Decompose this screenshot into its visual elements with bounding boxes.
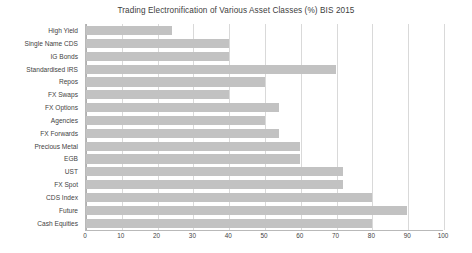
x-tick-label: 100 (438, 232, 449, 239)
bar-chart: Trading Electronification of Various Ass… (0, 0, 472, 253)
y-tick-label: FX Options (0, 103, 82, 112)
x-tick-label: 20 (153, 232, 160, 239)
y-tick-label: FX Forwards (0, 129, 82, 138)
y-tick-label: Future (0, 206, 82, 215)
bar-row (86, 154, 443, 163)
x-tick-label: 60 (296, 232, 303, 239)
bar-row (86, 26, 443, 35)
y-tick-label: Standardised IRS (0, 65, 82, 74)
x-axis-tick-labels: 0102030405060708090100 (85, 232, 443, 246)
bar-cash-equities (86, 219, 372, 228)
gridline-100 (444, 24, 445, 230)
bar-fx-forwards (86, 129, 279, 138)
bar-row (86, 129, 443, 138)
bar-egb (86, 154, 300, 163)
chart-title: Trading Electronification of Various Ass… (0, 6, 472, 15)
y-tick-label: IG Bonds (0, 52, 82, 61)
bar-fx-spot (86, 180, 343, 189)
x-tick-label: 70 (332, 232, 339, 239)
y-tick-label: Single Name CDS (0, 39, 82, 48)
bar-repos (86, 77, 265, 86)
bar-high-yield (86, 26, 172, 35)
bar-row (86, 65, 443, 74)
bar-future (86, 206, 407, 215)
bar-fx-swaps (86, 90, 229, 99)
y-tick-label: High Yield (0, 26, 82, 35)
bar-row (86, 180, 443, 189)
y-axis-tick-labels: High YieldSingle Name CDSIG BondsStandar… (0, 24, 82, 230)
bar-row (86, 193, 443, 202)
bar-row (86, 90, 443, 99)
x-tick-label: 30 (189, 232, 196, 239)
bar-series (86, 24, 443, 230)
bar-fx-options (86, 103, 279, 112)
y-tick-label: Agencies (0, 116, 82, 125)
y-tick-label: FX Spot (0, 180, 82, 189)
bar-row (86, 206, 443, 215)
x-tick-label: 90 (404, 232, 411, 239)
x-tick-label: 10 (117, 232, 124, 239)
bar-row (86, 142, 443, 151)
bar-row (86, 219, 443, 228)
bar-single-name-cds (86, 39, 229, 48)
y-tick-label: Repos (0, 77, 82, 86)
y-tick-label: FX Swaps (0, 90, 82, 99)
bar-row (86, 52, 443, 61)
x-tick-label: 40 (225, 232, 232, 239)
x-axis-line (85, 230, 443, 231)
bar-row (86, 39, 443, 48)
bar-row (86, 116, 443, 125)
bar-ust (86, 167, 343, 176)
bar-precious-metal (86, 142, 300, 151)
bar-standardised-irs (86, 65, 336, 74)
bar-agencies (86, 116, 265, 125)
y-tick-label: Precious Metal (0, 142, 82, 151)
y-tick-label: UST (0, 167, 82, 176)
bar-row (86, 167, 443, 176)
bar-cds-index (86, 193, 372, 202)
x-tick-label: 80 (368, 232, 375, 239)
y-tick-label: Cash Equities (0, 219, 82, 228)
x-tick-label: 50 (260, 232, 267, 239)
bar-ig-bonds (86, 52, 229, 61)
bar-row (86, 77, 443, 86)
plot-area (85, 24, 443, 230)
y-tick-label: CDS Index (0, 193, 82, 202)
x-tick-label: 0 (83, 232, 87, 239)
y-tick-label: EGB (0, 154, 82, 163)
bar-row (86, 103, 443, 112)
